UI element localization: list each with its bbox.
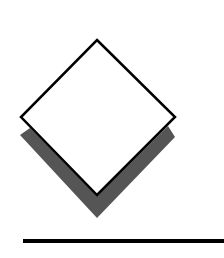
diamond-shape (21, 40, 175, 195)
diamond-graphic (0, 0, 224, 258)
